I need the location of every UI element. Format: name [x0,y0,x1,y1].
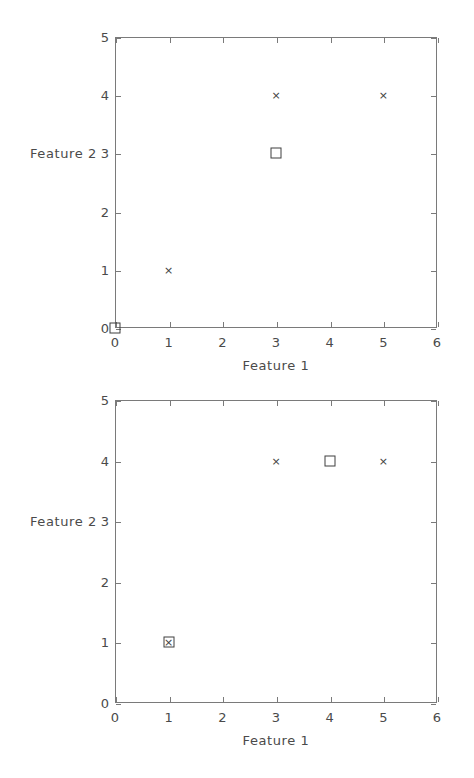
y-tick-left [116,643,121,644]
y-tick-label: 1 [93,263,109,276]
x-tick-top [438,38,439,43]
x-tick-top [438,401,439,406]
x-tick-label: 2 [218,711,226,724]
x-tick-top [223,401,224,406]
y-tick-label: 4 [93,454,109,467]
x-tick-bottom [277,697,278,702]
y-tick-label: 4 [93,89,109,102]
y-tick-label: 0 [93,697,109,710]
data-marker-square [271,148,282,159]
y-axis-title: Feature 2 [30,515,89,528]
x-tick-bottom [438,322,439,327]
data-marker-cross: × [271,90,280,101]
y-tick-left [116,96,121,97]
y-tick-label: 0 [93,322,109,335]
x-tick-bottom [384,322,385,327]
y-tick-right [431,96,436,97]
x-tick-top [277,401,278,406]
x-tick-label: 2 [218,336,226,349]
x-tick-bottom [223,697,224,702]
y-tick-left [116,583,121,584]
x-tick-top [277,38,278,43]
x-tick-top [331,401,332,406]
y-tick-left [116,704,121,705]
x-tick-label: 5 [379,711,387,724]
x-tick-label: 6 [433,711,441,724]
x-tick-label: 1 [165,711,173,724]
x-tick-label: 1 [165,336,173,349]
y-tick-label: 2 [93,205,109,218]
x-tick-label: 4 [326,336,334,349]
x-tick-label: 3 [272,711,280,724]
data-marker-cross: × [379,90,388,101]
x-tick-label: 0 [111,336,119,349]
x-tick-bottom [116,697,117,702]
data-marker-square [110,323,121,334]
y-tick-left [116,154,121,155]
x-tick-top [384,38,385,43]
scatter-plot-figure: 0123456012345Feature 1Feature 2××× 01234… [0,0,474,778]
y-tick-left [116,522,121,523]
x-tick-top [170,401,171,406]
scatter-plot-top: 0123456012345Feature 1Feature 2××× [0,0,474,390]
plot-axes-box [115,37,437,328]
y-tick-right [431,643,436,644]
y-tick-right [431,213,436,214]
y-tick-label: 2 [93,575,109,588]
x-axis-title: Feature 1 [243,734,310,747]
x-axis-title: Feature 1 [243,359,310,372]
y-tick-label: 5 [93,394,109,407]
y-tick-label: 1 [93,636,109,649]
y-axis-title: Feature 2 [30,147,89,160]
y-tick-right [431,154,436,155]
y-tick-right [431,522,436,523]
x-tick-label: 5 [379,336,387,349]
y-tick-right [431,329,436,330]
scatter-plot-bottom: 0123456012345Feature 1Feature 2××× [0,388,474,778]
x-tick-bottom [331,322,332,327]
y-tick-right [431,38,436,39]
y-tick-right [431,401,436,402]
plot-axes-box [115,400,437,703]
y-tick-right [431,704,436,705]
y-tick-left [116,38,121,39]
x-tick-bottom [438,697,439,702]
x-tick-label: 6 [433,336,441,349]
x-tick-top [331,38,332,43]
y-tick-left [116,401,121,402]
data-marker-cross: × [271,455,280,466]
y-tick-left [116,462,121,463]
x-tick-top [223,38,224,43]
x-tick-bottom [384,697,385,702]
data-marker-cross: × [379,455,388,466]
x-tick-bottom [331,697,332,702]
y-tick-left [116,271,121,272]
data-marker-square [324,455,335,466]
x-tick-bottom [170,322,171,327]
data-marker-cross: × [164,264,173,275]
data-marker-square [163,637,174,648]
y-tick-left [116,213,121,214]
x-tick-bottom [170,697,171,702]
x-tick-bottom [277,322,278,327]
y-tick-right [431,271,436,272]
x-tick-label: 3 [272,336,280,349]
x-tick-label: 0 [111,711,119,724]
x-tick-bottom [223,322,224,327]
y-tick-right [431,583,436,584]
y-tick-label: 5 [93,31,109,44]
x-tick-label: 4 [326,711,334,724]
x-tick-top [384,401,385,406]
y-tick-right [431,462,436,463]
x-tick-top [170,38,171,43]
